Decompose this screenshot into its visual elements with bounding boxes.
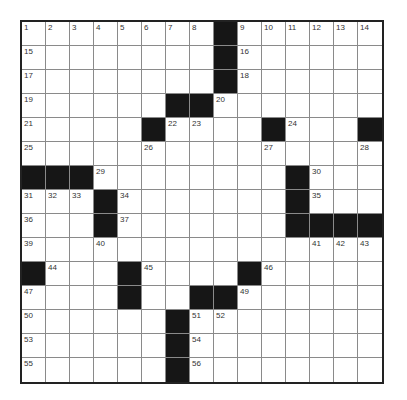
grid-cell[interactable] [262, 214, 286, 238]
grid-cell[interactable]: 35 [310, 190, 334, 214]
grid-cell[interactable] [262, 238, 286, 262]
grid-cell[interactable] [358, 166, 382, 190]
grid-cell[interactable] [94, 142, 118, 166]
grid-cell[interactable] [118, 334, 142, 358]
grid-cell[interactable]: 43 [358, 238, 382, 262]
grid-cell[interactable] [70, 358, 94, 382]
grid-cell[interactable]: 25 [22, 142, 46, 166]
grid-cell[interactable] [334, 262, 358, 286]
grid-cell[interactable] [238, 118, 262, 142]
grid-cell[interactable] [142, 214, 166, 238]
grid-cell[interactable] [238, 190, 262, 214]
grid-cell[interactable]: 14 [358, 22, 382, 46]
grid-cell[interactable] [142, 190, 166, 214]
grid-cell[interactable] [334, 190, 358, 214]
grid-cell[interactable]: 28 [358, 142, 382, 166]
grid-cell[interactable] [166, 262, 190, 286]
grid-cell[interactable] [262, 46, 286, 70]
grid-cell[interactable]: 30 [310, 166, 334, 190]
grid-cell[interactable]: 7 [166, 22, 190, 46]
grid-cell[interactable]: 51 [190, 310, 214, 334]
grid-cell[interactable] [238, 310, 262, 334]
grid-cell[interactable] [334, 286, 358, 310]
grid-cell[interactable] [190, 190, 214, 214]
grid-cell[interactable] [310, 286, 334, 310]
grid-cell[interactable] [190, 214, 214, 238]
grid-cell[interactable] [358, 358, 382, 382]
grid-cell[interactable]: 27 [262, 142, 286, 166]
grid-cell[interactable] [358, 310, 382, 334]
grid-cell[interactable] [46, 142, 70, 166]
grid-cell[interactable] [358, 286, 382, 310]
grid-cell[interactable] [94, 118, 118, 142]
grid-cell[interactable] [334, 310, 358, 334]
grid-cell[interactable] [118, 166, 142, 190]
grid-cell[interactable]: 36 [22, 214, 46, 238]
grid-cell[interactable] [358, 70, 382, 94]
grid-cell[interactable] [334, 142, 358, 166]
grid-cell[interactable] [262, 310, 286, 334]
grid-cell[interactable]: 19 [22, 94, 46, 118]
grid-cell[interactable]: 5 [118, 22, 142, 46]
grid-cell[interactable] [310, 310, 334, 334]
grid-cell[interactable]: 10 [262, 22, 286, 46]
grid-cell[interactable] [142, 334, 166, 358]
grid-cell[interactable] [214, 334, 238, 358]
grid-cell[interactable]: 31 [22, 190, 46, 214]
grid-cell[interactable] [238, 358, 262, 382]
grid-cell[interactable] [286, 94, 310, 118]
grid-cell[interactable]: 17 [22, 70, 46, 94]
grid-cell[interactable] [214, 262, 238, 286]
grid-cell[interactable] [94, 70, 118, 94]
grid-cell[interactable]: 23 [190, 118, 214, 142]
grid-cell[interactable]: 11 [286, 22, 310, 46]
grid-cell[interactable] [286, 334, 310, 358]
grid-cell[interactable] [46, 238, 70, 262]
grid-cell[interactable]: 46 [262, 262, 286, 286]
grid-cell[interactable] [310, 142, 334, 166]
grid-cell[interactable]: 20 [214, 94, 238, 118]
grid-cell[interactable]: 9 [238, 22, 262, 46]
grid-cell[interactable] [358, 94, 382, 118]
grid-cell[interactable] [286, 286, 310, 310]
grid-cell[interactable] [70, 238, 94, 262]
grid-cell[interactable] [214, 238, 238, 262]
grid-cell[interactable] [238, 238, 262, 262]
grid-cell[interactable] [118, 142, 142, 166]
grid-cell[interactable] [94, 310, 118, 334]
grid-cell[interactable] [118, 70, 142, 94]
grid-cell[interactable] [118, 358, 142, 382]
grid-cell[interactable] [262, 286, 286, 310]
grid-cell[interactable] [142, 238, 166, 262]
grid-cell[interactable] [358, 334, 382, 358]
grid-cell[interactable]: 50 [22, 310, 46, 334]
grid-cell[interactable] [166, 238, 190, 262]
grid-cell[interactable] [286, 70, 310, 94]
grid-cell[interactable] [334, 118, 358, 142]
grid-cell[interactable] [166, 70, 190, 94]
grid-cell[interactable]: 16 [238, 46, 262, 70]
grid-cell[interactable]: 21 [22, 118, 46, 142]
grid-cell[interactable] [238, 94, 262, 118]
grid-cell[interactable] [166, 142, 190, 166]
grid-cell[interactable]: 6 [142, 22, 166, 46]
grid-cell[interactable] [118, 94, 142, 118]
grid-cell[interactable] [190, 166, 214, 190]
grid-cell[interactable] [46, 334, 70, 358]
grid-cell[interactable] [334, 166, 358, 190]
grid-cell[interactable] [46, 70, 70, 94]
grid-cell[interactable] [142, 286, 166, 310]
grid-cell[interactable] [70, 118, 94, 142]
grid-cell[interactable] [286, 310, 310, 334]
grid-cell[interactable] [142, 358, 166, 382]
grid-cell[interactable]: 2 [46, 22, 70, 46]
grid-cell[interactable] [46, 118, 70, 142]
grid-cell[interactable] [166, 286, 190, 310]
grid-cell[interactable] [310, 118, 334, 142]
grid-cell[interactable] [94, 334, 118, 358]
grid-cell[interactable]: 54 [190, 334, 214, 358]
grid-cell[interactable]: 18 [238, 70, 262, 94]
grid-cell[interactable] [310, 334, 334, 358]
grid-cell[interactable]: 42 [334, 238, 358, 262]
grid-cell[interactable] [118, 238, 142, 262]
